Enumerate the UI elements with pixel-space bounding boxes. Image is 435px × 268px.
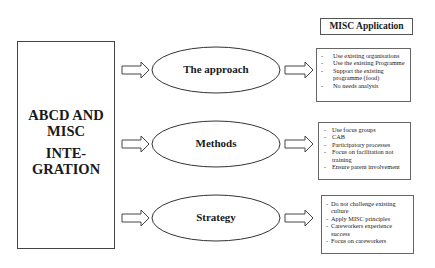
strategy-list-box: -Do not challenge existing culture -Appl…	[321, 195, 414, 254]
subtitle-line-2: GRATION	[17, 161, 115, 177]
arrow-right-icon	[285, 136, 313, 152]
arrow-right-icon	[122, 136, 149, 152]
methods-list-box: -Use focus groups -CAB -Participatory pr…	[318, 122, 411, 180]
list-item: -Ensure parent involvement	[324, 163, 407, 170]
list-item: -Do not challenge existing culture	[326, 200, 410, 215]
list-item: -Focus on facilitation not training	[324, 148, 407, 163]
list-item: -Participatory processes	[324, 141, 407, 148]
list-item: -Use focus groups	[324, 126, 407, 133]
approach-list-box: -Use existing organisations -Use the exi…	[316, 48, 411, 102]
title-line-2: MISC	[17, 123, 115, 139]
arrow-right-icon	[285, 210, 313, 226]
list-item: -CAB	[324, 133, 407, 140]
list-item: -Apply MISC principles	[326, 215, 410, 222]
misc-application-header: MISC Application	[320, 18, 413, 35]
subtitle-line-1: INTE-	[17, 145, 115, 161]
title-line-1: ABCD AND	[17, 107, 115, 123]
arrow-right-icon	[285, 62, 313, 78]
list-item: -Focus on careworkers	[326, 237, 410, 244]
label-strategy: Strategy	[151, 211, 281, 223]
list-item: -Support the existing programme (food)	[321, 67, 407, 82]
arrow-right-icon	[122, 210, 149, 226]
label-the-approach: The approach	[151, 63, 281, 75]
list-item: -Careworkers experience success	[326, 222, 410, 237]
list-item: -Use the existing Programme	[321, 59, 407, 66]
integration-title: ABCD AND MISC INTE- GRATION	[17, 107, 115, 177]
list-item: -Use existing organisations	[321, 52, 407, 59]
list-item: -No needs analysis	[321, 82, 407, 89]
label-methods: Methods	[151, 137, 281, 149]
arrow-right-icon	[122, 62, 149, 78]
